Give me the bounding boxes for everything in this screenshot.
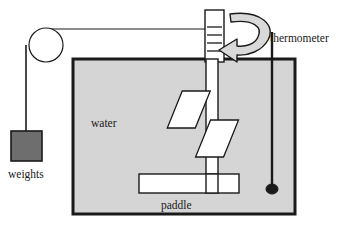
paddle-horizontal-bar: [139, 174, 239, 193]
label-water: water: [91, 117, 117, 129]
rotation-arrow: [219, 13, 270, 62]
diagram-canvas: water paddle weights thermometer: [0, 0, 340, 231]
winding-spool: [205, 10, 224, 62]
label-paddle: paddle: [161, 199, 192, 212]
thermometer-bulb: [266, 184, 278, 194]
label-weights: weights: [8, 168, 44, 181]
label-thermometer: thermometer: [270, 32, 329, 44]
pulley-wheel: [29, 28, 63, 62]
physics-diagram-joule-apparatus: water paddle weights thermometer: [0, 0, 340, 231]
paddle-shaft-over-bar: [206, 174, 218, 193]
weight-block: [11, 131, 42, 161]
